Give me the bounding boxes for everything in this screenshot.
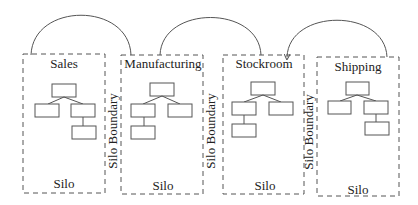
org-chart [232, 82, 293, 137]
silo-footer: Silo [255, 178, 276, 193]
org-chart [328, 82, 389, 135]
silo-title: Shipping [335, 59, 382, 74]
silo-sales: Sales Silo [23, 54, 105, 193]
silo-title: Stockroom [235, 56, 292, 71]
silo-manufacturing: Manufacturing Silo [121, 55, 203, 194]
silo-shipping: Shipping Silo [317, 57, 399, 197]
org-chart [131, 83, 192, 139]
silo-border [121, 55, 203, 194]
silo-boundary-label: Silo Boundary [105, 93, 120, 169]
org-chart [35, 84, 96, 139]
silo-title: Manufacturing [124, 56, 202, 71]
silo-border [23, 54, 105, 193]
connector-arc-sales-manufacturing [31, 15, 131, 55]
silo-diagram: Sales Silo Silo Boundary Manufacturing S… [0, 0, 418, 205]
silo-boundary-label: Silo Boundary [203, 93, 218, 169]
silo-boundary-label: Silo Boundary [301, 94, 316, 170]
silo-footer: Silo [153, 178, 174, 193]
silo-stockroom: Stockroom Silo [223, 55, 304, 194]
connector-arc-stockroom-shipping [287, 20, 387, 57]
silo-footer: Silo [348, 182, 369, 197]
connector-arc-manufacturing-stockroom [160, 18, 261, 56]
silo-title: Sales [50, 56, 77, 71]
silo-footer: Silo [54, 176, 75, 191]
